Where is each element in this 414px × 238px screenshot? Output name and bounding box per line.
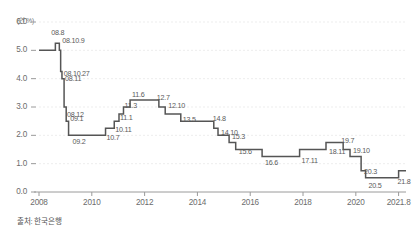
y-tick-label: 1.0 xyxy=(1,159,27,168)
source-note: 출처: 한국은행 xyxy=(17,215,62,226)
data-point-label: 12.10 xyxy=(168,101,185,110)
y-tick-label: 2.0 xyxy=(1,130,27,139)
data-point-label: 21.8 xyxy=(398,177,411,186)
data-point-label: 09.1 xyxy=(70,114,83,123)
data-point-label: 20.3 xyxy=(364,167,377,176)
data-point-label: 13.5 xyxy=(183,115,196,124)
x-tick-label: 2018 xyxy=(283,198,323,207)
chart-figure: (연 %) 6.05.04.03.02.01.00.0 200820102012… xyxy=(0,0,414,238)
y-tick-label: 3.0 xyxy=(1,102,27,111)
data-point-label: 09.2 xyxy=(73,137,86,146)
data-point-label: 19.10 xyxy=(353,146,370,155)
data-point-label: 08.11 xyxy=(65,74,81,83)
data-point-label: 19.7 xyxy=(341,136,354,145)
x-tick-label: 2012 xyxy=(125,198,165,207)
y-tick-label: 0.0 xyxy=(1,187,27,196)
x-tick-label: 2020 xyxy=(336,198,376,207)
x-tick-label: 2021.8 xyxy=(379,198,414,207)
x-tick-label: 2016 xyxy=(230,198,270,207)
data-point-label: 08.10.9 xyxy=(62,36,84,45)
data-point-label: 18.11 xyxy=(329,147,345,156)
data-point-label: 20.5 xyxy=(369,181,382,190)
rate-step-line xyxy=(39,43,406,178)
x-tick-label: 2008 xyxy=(19,198,59,207)
data-point-label: 11.1 xyxy=(120,113,132,122)
y-tick-label: 6.0 xyxy=(1,17,27,26)
data-point-label: 15.3 xyxy=(232,132,245,141)
data-point-label: 11.3 xyxy=(124,101,136,110)
data-point-label: 14.8 xyxy=(213,114,226,123)
data-point-label: 15.6 xyxy=(239,147,252,156)
data-point-label: 11.6 xyxy=(132,90,144,99)
x-tick-label: 2014 xyxy=(177,198,217,207)
x-tick-label: 2010 xyxy=(72,198,112,207)
data-point-label: 10.7 xyxy=(107,133,120,142)
y-tick-label: 4.0 xyxy=(1,74,27,83)
data-point-label: 17.11 xyxy=(302,156,318,165)
data-point-label: 16.6 xyxy=(265,158,278,167)
data-point-label: 10.11 xyxy=(115,125,131,134)
y-tick-label: 5.0 xyxy=(1,45,27,54)
